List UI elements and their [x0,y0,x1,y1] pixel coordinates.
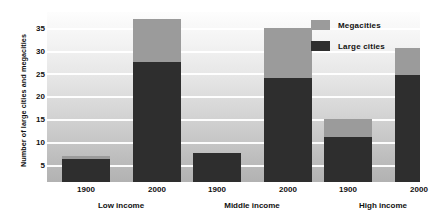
x-tick-label-high-1900: 1900 [339,185,357,194]
y-tick-label-35: 35 [9,24,45,33]
x-tick-label-low-2000: 2000 [148,185,166,194]
group-label-middle-income: Middle income [224,201,280,210]
x-tick-label-low-1900: 1900 [77,185,95,194]
y-tick-label-5: 5 [9,161,45,170]
legend-swatch-large-cities-icon [311,41,330,51]
legend-label-large-cities: Large cities [338,42,385,51]
bar-segment-large-cities [193,153,241,182]
chart-legend: Megacities Large cities [311,17,385,59]
bar-middle-income-2000 [264,28,312,182]
y-tick-label-25: 25 [9,70,45,79]
y-tick-label-30: 30 [9,47,45,56]
bar-segment-large-cities [264,78,312,182]
bar-segment-megacities [324,119,372,137]
group-label-low-income: Low income [98,201,144,210]
gridline-25 [47,73,420,75]
bar-high-income-1900 [324,119,372,182]
bar-high-income-2000 [395,48,420,182]
legend-item-megacities: Megacities [311,17,385,33]
legend-swatch-megacities-icon [311,20,330,30]
legend-label-megacities: Megacities [338,21,381,30]
bar-segment-megacities [395,48,420,75]
bar-low-income-2000 [133,19,181,182]
y-tick-label-20: 20 [9,92,45,101]
x-tick-label-high-2000: 2000 [410,185,428,194]
bar-segment-large-cities [62,159,110,182]
bar-segment-large-cities [395,75,420,182]
bar-segment-large-cities [324,137,372,182]
bar-segment-megacities [62,156,110,159]
bar-middle-income-1900 [193,153,241,182]
bar-segment-megacities [264,28,312,78]
bar-segment-large-cities [133,62,181,182]
bar-segment-megacities [133,19,181,62]
y-tick-label-10: 10 [9,138,45,147]
x-tick-label-middle-2000: 2000 [279,185,297,194]
bar-low-income-1900 [62,156,110,182]
gridline-20 [47,96,420,98]
y-tick-label-15: 15 [9,115,45,124]
stacked-bar-chart: Number of large cities and megacities 5 … [0,0,429,221]
x-tick-label-middle-1900: 1900 [208,185,226,194]
legend-item-large-cities: Large cities [311,38,385,54]
group-label-high-income: High income [359,201,407,210]
